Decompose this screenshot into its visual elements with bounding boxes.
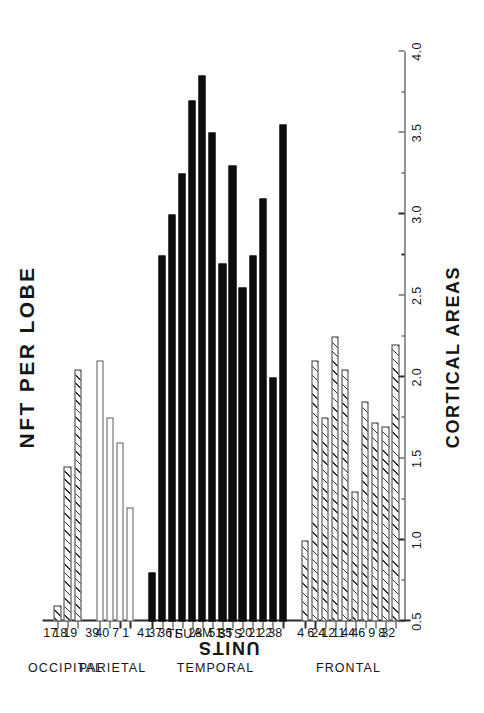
category-tick-labels: 328946441112246438222120STS3551AM28SUTF3… (52, 51, 400, 621)
value-axis-minor-tick (401, 91, 405, 92)
value-axis-major-tick (398, 131, 404, 132)
category-axis-title: CORTICAL AREAS (442, 0, 463, 713)
value-axis-minor-tick (401, 253, 405, 254)
value-axis-major-tick (398, 620, 404, 621)
chart-title: NFT PER LOBE (14, 0, 38, 713)
value-axis-tick-label: 3.0 (409, 205, 423, 224)
value-axis-major-tick (398, 294, 404, 295)
value-axis-major-tick (398, 212, 404, 213)
value-axis-tick-label: 1.0 (409, 530, 423, 549)
value-axis-major-tick (398, 538, 404, 539)
value-axis-major-tick (398, 457, 404, 458)
value-axis-minor-tick (401, 416, 405, 417)
lobe-group-label: TEMPORAL (169, 660, 261, 674)
value-axis-tick-label: 3.5 (409, 123, 423, 142)
value-axis-minor-tick (401, 335, 405, 336)
lobe-group-label: FRONTAL (302, 660, 394, 674)
value-axis-minor-tick (401, 498, 405, 499)
lobe-group-labels: FRONTALTEMPORALPARIETALOCCIPITAL (52, 621, 400, 713)
value-axis-tick-label: 2.5 (409, 286, 423, 305)
value-axis-minor-tick (401, 579, 405, 580)
value-axis-tick-label: 4.0 (409, 42, 423, 61)
value-axis-minor-tick (401, 172, 405, 173)
value-axis-tick-label: 2.0 (409, 367, 423, 386)
rotated-figure-canvas: NFT PER LOBE UNITS CORTICAL AREAS 328946… (0, 0, 484, 713)
value-axis-major-tick (398, 50, 404, 51)
figure-page: NFT PER LOBE UNITS CORTICAL AREAS 328946… (0, 0, 484, 713)
lobe-group-label: OCCIPITAL (19, 660, 111, 674)
value-axis-tick-label: 0.5 (409, 612, 423, 631)
value-axis-major-tick (398, 375, 404, 376)
value-axis-scale: 0.51.01.52.02.53.03.54.0 (404, 51, 438, 621)
value-axis-tick-label: 1.5 (409, 449, 423, 468)
